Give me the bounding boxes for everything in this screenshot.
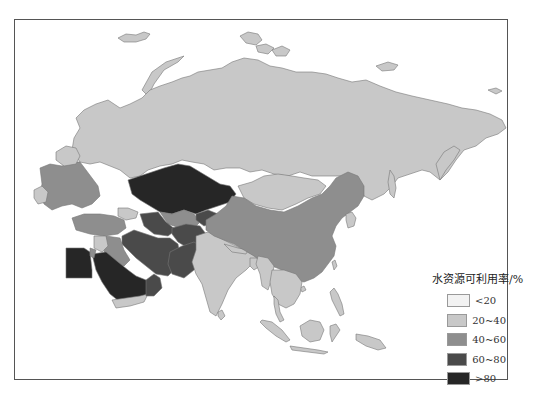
legend-label: <20 (475, 295, 496, 306)
region-new-guinea (356, 334, 386, 350)
legend-label: 40~60 (472, 334, 506, 345)
region-korea (346, 212, 356, 228)
region-franz-josef (240, 32, 274, 54)
region-sumatra (260, 320, 290, 342)
legend-label: 60~80 (472, 354, 506, 365)
legend-title: 水资源可利用率/% (432, 270, 506, 286)
legend-item: 60~80 (447, 350, 506, 370)
region-java (290, 346, 328, 354)
legend-label: >80 (475, 373, 496, 384)
region-wrangel (488, 88, 502, 94)
region-baltics (56, 146, 80, 166)
region-egypt (66, 248, 92, 278)
region-severnaya-zemlya (272, 46, 290, 56)
region-turkey (72, 214, 126, 236)
region-oman (146, 274, 162, 296)
legend-swatch (447, 294, 470, 307)
region-sri-lanka (218, 310, 225, 320)
legend-item: <20 (447, 291, 506, 311)
region-svalbard (118, 32, 150, 42)
region-new-siberian (376, 62, 398, 71)
region-caucasus (118, 208, 138, 220)
region-taiwan (332, 260, 337, 270)
legend-label: 20~40 (472, 315, 506, 326)
legend-item: 40~60 (447, 330, 506, 350)
legend-swatch (447, 314, 467, 327)
legend-swatch (447, 333, 467, 346)
legend-item: >80 (447, 369, 506, 389)
region-eastern-europe (40, 162, 100, 210)
region-sulawesi (330, 324, 340, 342)
legend: 水资源可利用率/% <20 20~40 40~60 60~80 >80 (432, 270, 506, 389)
legend-swatch (447, 372, 470, 385)
legend-swatch (447, 353, 467, 366)
region-borneo (300, 320, 324, 342)
region-philippines (330, 288, 344, 316)
legend-item: 20~40 (447, 311, 506, 331)
